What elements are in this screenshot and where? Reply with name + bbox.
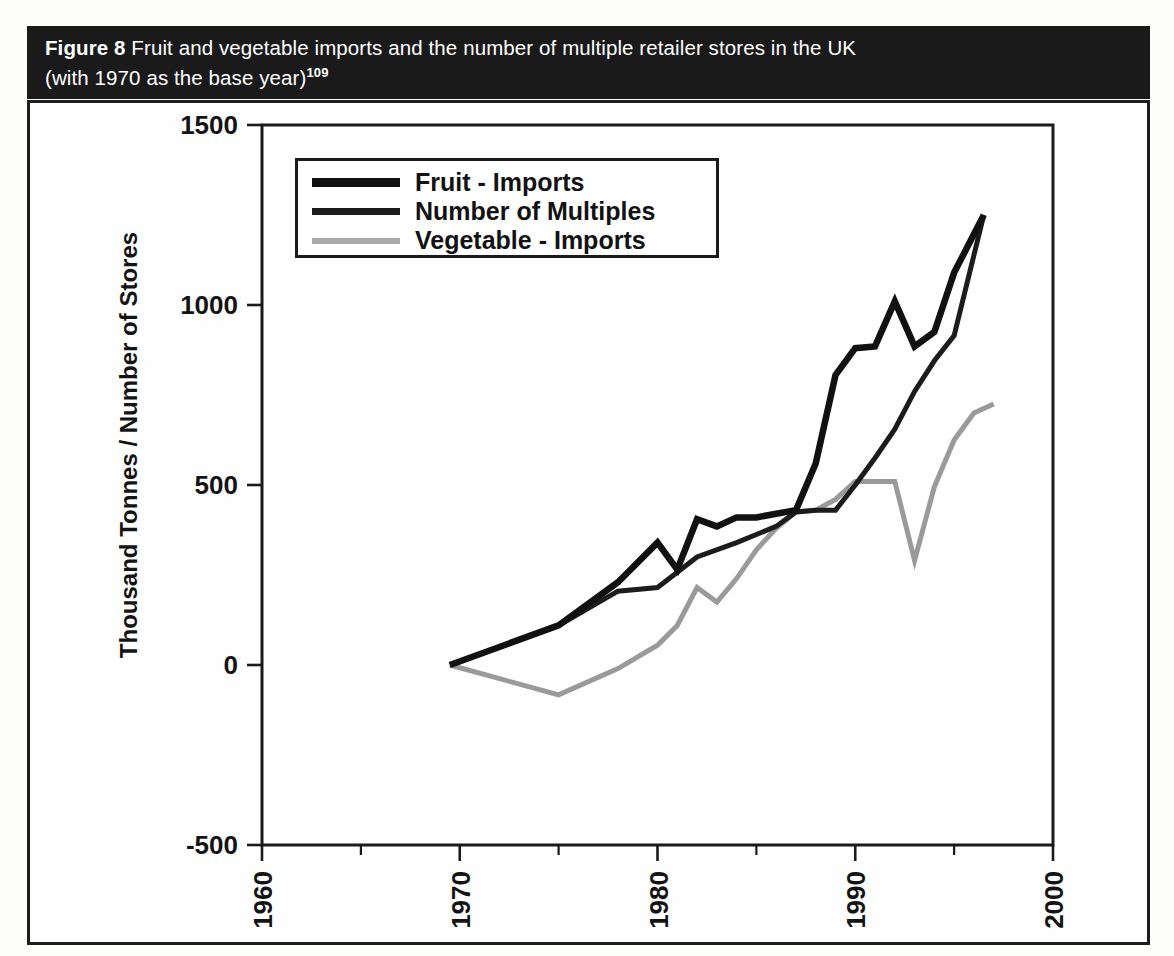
figure-caption-line-2: (with 1970 as the base year)109	[45, 63, 1136, 93]
legend-swatch-vegetable-imports	[312, 238, 400, 244]
figure-caption-text-2: (with 1970 as the base year)	[45, 66, 306, 89]
legend-swatch-fruit-imports	[312, 178, 400, 187]
legend-swatch-number-of-multiples	[312, 208, 400, 215]
figure-caption-footnote-ref: 109	[306, 65, 328, 80]
legend-item-fruit-imports: Fruit - Imports	[298, 168, 716, 197]
legend-label-fruit-imports: Fruit - Imports	[415, 170, 584, 195]
legend-item-vegetable-imports: Vegetable - Imports	[298, 226, 716, 255]
figure-number: Figure 8	[45, 36, 126, 59]
legend-item-number-of-multiples: Number of Multiples	[298, 197, 716, 226]
figure-container: Figure 8 Fruit and vegetable imports and…	[0, 0, 1174, 956]
chart-legend: Fruit - Imports Number of Multiples Vege…	[295, 158, 719, 258]
figure-caption-line-1: Figure 8 Fruit and vegetable imports and…	[45, 33, 1136, 63]
legend-label-vegetable-imports: Vegetable - Imports	[415, 228, 646, 253]
figure-caption-text-1: Fruit and vegetable imports and the numb…	[126, 36, 857, 59]
figure-caption-bar: Figure 8 Fruit and vegetable imports and…	[27, 26, 1150, 99]
legend-label-number-of-multiples: Number of Multiples	[415, 199, 655, 224]
